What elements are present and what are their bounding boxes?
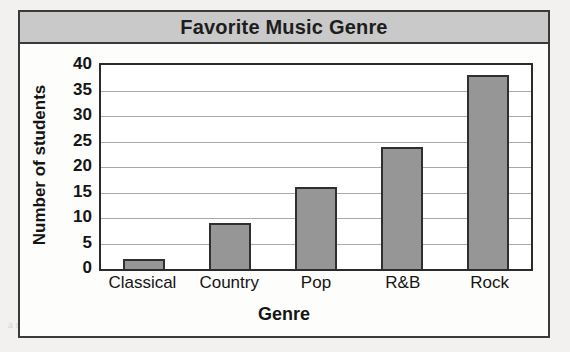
- bar-r-b: [381, 147, 423, 269]
- plot-area: [99, 63, 533, 271]
- bar-pop: [295, 187, 337, 269]
- bar-country: [209, 223, 251, 269]
- y-axis-tick-label: 35: [73, 80, 92, 97]
- y-axis-tick-label: 0: [83, 259, 92, 276]
- y-axis-label-text: Number of students: [30, 85, 50, 246]
- y-axis-label: Number of students: [26, 50, 54, 280]
- y-axis-tick-label: 15: [73, 182, 92, 199]
- x-axis-tick-label: Country: [189, 273, 269, 293]
- y-axis-tick-label: 5: [83, 233, 92, 250]
- bar-classical: [123, 259, 165, 269]
- y-axis-tick-label: 40: [73, 55, 92, 72]
- x-axis-tick-label: R&B: [363, 273, 443, 293]
- bar-rock: [467, 75, 509, 269]
- bar-series: [101, 65, 531, 269]
- y-axis-tick-label: 30: [73, 106, 92, 123]
- y-axis-tick-label: 20: [73, 157, 92, 174]
- y-axis-tick-label: 25: [73, 131, 92, 148]
- x-axis-tick-label: Pop: [276, 273, 356, 293]
- chart-title: Favorite Music Genre: [180, 16, 387, 39]
- y-axis-tick-label: 10: [73, 208, 92, 225]
- y-axis-ticks: 0510152025303540: [52, 57, 94, 273]
- x-axis-label: Genre: [20, 304, 548, 325]
- x-axis-tick-label: Rock: [450, 273, 530, 293]
- x-axis-ticks: ClassicalCountryPopR&BRock: [99, 273, 533, 293]
- x-axis-tick-label: Classical: [102, 273, 182, 293]
- bar-chart: Favorite Music Genre Number of students …: [18, 10, 550, 338]
- chart-title-band: Favorite Music Genre: [20, 12, 548, 44]
